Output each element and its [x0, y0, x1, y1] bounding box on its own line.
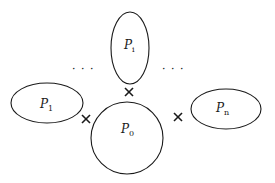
subscript-p-i: i	[132, 45, 135, 54]
subscript-p-1: 1	[48, 104, 53, 113]
cross-icon-top	[125, 88, 133, 96]
subscript-p-0: 0	[129, 129, 134, 138]
ellipsis-left: · · ·	[72, 63, 94, 76]
node-p-1: P 1	[11, 83, 83, 123]
cross-icon-left	[82, 115, 90, 123]
subscript-p-n: n	[224, 108, 229, 117]
ellipsis-right: · · ·	[162, 63, 184, 76]
cross-icon-right	[174, 113, 182, 121]
node-p-n: P n	[191, 89, 261, 129]
circle-p-0	[91, 102, 163, 174]
node-p-0: P 0	[91, 102, 163, 174]
wedge-sum-diagram: P i P 1 P 0 P n · · · · · ·	[0, 0, 275, 183]
node-p-i: P i	[111, 12, 149, 84]
